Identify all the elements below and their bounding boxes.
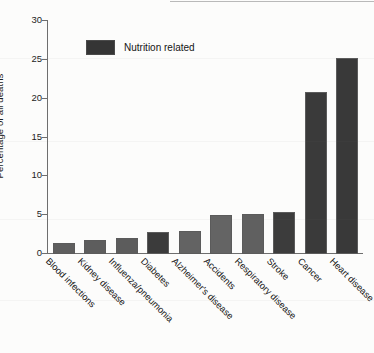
bar-alzheimer-s-disease[interactable] xyxy=(179,231,201,254)
scan-artifact xyxy=(0,300,374,301)
x-axis-category-labels: Blood infectionsKidney diseaseInfluenza/… xyxy=(47,256,374,352)
y-axis-tick xyxy=(42,137,47,138)
x-label-diabetes: Diabetes xyxy=(138,256,171,289)
bar-diabetes[interactable] xyxy=(147,232,169,254)
y-axis-tick xyxy=(42,20,47,21)
x-label-stroke: Stroke xyxy=(264,256,290,282)
bar-fill xyxy=(243,215,263,253)
y-axis-tick xyxy=(42,175,47,176)
y-axis-tick xyxy=(42,98,47,99)
scan-artifact xyxy=(0,58,374,59)
x-label-alzheimer-s-disease: Alzheimer's disease xyxy=(170,256,235,321)
y-axis-tick-label: 10 xyxy=(31,169,42,180)
x-label-respiratory-disease: Respiratory disease xyxy=(233,256,298,321)
x-label-heart-disease: Heart disease xyxy=(327,256,374,304)
y-axis-tick-label: 15 xyxy=(31,131,42,142)
bar-cancer[interactable] xyxy=(305,92,327,254)
bar-fill xyxy=(54,244,74,253)
y-axis-tick xyxy=(42,214,47,215)
bar-influenza-pneumonia[interactable] xyxy=(116,238,138,254)
y-axis-title: Percentage of all deaths xyxy=(0,46,5,206)
legend-swatch-nutrition-related xyxy=(86,40,115,55)
bar-fill xyxy=(211,216,231,253)
bar-accidents[interactable] xyxy=(210,215,232,254)
scan-artifact xyxy=(0,219,374,220)
scan-edge-line xyxy=(170,1,374,2)
y-axis-tick xyxy=(42,253,47,254)
bar-fill xyxy=(85,241,105,253)
legend-label-nutrition-related: Nutrition related xyxy=(124,42,195,53)
bar-fill xyxy=(180,232,200,253)
bar-fill xyxy=(337,59,357,253)
y-axis-tick-label: 20 xyxy=(31,92,42,103)
bar-fill xyxy=(117,239,137,253)
legend: Nutrition related xyxy=(86,40,195,55)
bar-kidney-disease[interactable] xyxy=(84,240,106,254)
bar-blood-infections[interactable] xyxy=(53,243,75,254)
chart-figure: 051015202530 Percentage of all deaths Nu… xyxy=(0,0,374,353)
x-label-cancer: Cancer xyxy=(296,256,324,284)
bar-fill xyxy=(148,233,168,253)
bar-respiratory-disease[interactable] xyxy=(242,214,264,254)
bar-heart-disease[interactable] xyxy=(336,58,358,254)
scan-artifact xyxy=(0,141,374,142)
bar-fill xyxy=(306,93,326,253)
y-axis-tick-label: 30 xyxy=(31,14,42,25)
